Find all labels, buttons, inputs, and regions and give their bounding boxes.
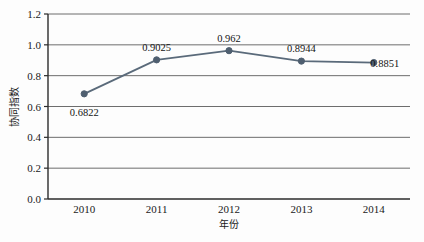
x-axis-tick-label: 2014 — [363, 203, 386, 215]
data-point-marker[interactable] — [226, 48, 232, 54]
data-point-marker[interactable] — [154, 57, 160, 63]
y-axis-title: 协同指数 — [8, 87, 20, 127]
x-axis-tick-label: 2011 — [146, 203, 168, 215]
y-axis-tick-label: 1.0 — [27, 39, 41, 51]
data-point-marker[interactable] — [81, 91, 87, 97]
data-point-marker[interactable] — [298, 58, 304, 64]
x-axis-tick-label: 2013 — [290, 203, 313, 215]
y-axis-tick-label: 1.2 — [27, 8, 41, 20]
x-axis-tick-label: 2012 — [218, 203, 240, 215]
data-point-label: 0.6822 — [70, 107, 99, 118]
y-axis-tick-label: 0.8 — [27, 70, 41, 82]
y-axis-tick-label: 0.4 — [27, 131, 41, 143]
data-point-label: 0.9025 — [142, 42, 171, 53]
line-chart: 0.00.20.40.60.81.01.22010201120122013201… — [0, 0, 424, 242]
chart-container: 0.00.20.40.60.81.01.22010201120122013201… — [0, 0, 424, 242]
y-axis-tick-label: 0.2 — [27, 162, 41, 174]
x-axis-title: 年份 — [219, 218, 239, 230]
data-point-label: 0.8944 — [287, 43, 317, 54]
data-point-label: 0.962 — [217, 33, 241, 44]
y-axis-tick-label: 0.6 — [27, 101, 41, 113]
data-series-line — [84, 51, 374, 94]
y-axis-tick-label: 0.0 — [27, 193, 41, 205]
x-axis-tick-label: 2010 — [73, 203, 96, 215]
data-point-label: 0.8851 — [370, 58, 399, 69]
